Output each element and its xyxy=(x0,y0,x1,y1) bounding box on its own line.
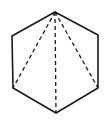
hexagon-diagram xyxy=(0,0,107,123)
dashed-diagonal-top-to-bottom xyxy=(55,12,56,113)
